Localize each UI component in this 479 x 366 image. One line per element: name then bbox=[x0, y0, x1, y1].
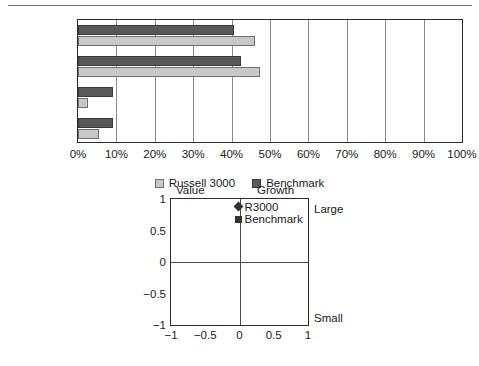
bar-group bbox=[78, 82, 462, 113]
x-axis-tick-label: 0% bbox=[70, 148, 87, 160]
scatter-point: Benchmark bbox=[235, 213, 303, 225]
style-box-y-tick-label: 0.5 bbox=[76, 225, 166, 237]
allocation-bar-chart: LgValueLgGrowthSmValueSmGrowth 0%10%20%3… bbox=[0, 12, 479, 172]
x-axis-tick-label: 90% bbox=[412, 148, 435, 160]
bar-benchmark bbox=[78, 56, 241, 66]
style-box-x-tick-label: −0.5 bbox=[194, 329, 217, 341]
style-box-y-tick-label: 0 bbox=[76, 256, 166, 268]
bar-chart-plot-area bbox=[77, 19, 463, 143]
x-axis-tick-label: 60% bbox=[297, 148, 320, 160]
x-axis-tick-label: 80% bbox=[374, 148, 397, 160]
scatter-point-label: R3000 bbox=[245, 201, 279, 213]
x-axis-tick-label: 70% bbox=[335, 148, 358, 160]
x-axis-tick-label: 10% bbox=[105, 148, 128, 160]
square-marker-icon bbox=[235, 216, 242, 223]
x-axis-tick-label: 20% bbox=[143, 148, 166, 160]
x-axis-tick-label: 30% bbox=[182, 148, 205, 160]
bar-benchmark bbox=[78, 118, 113, 128]
scatter-point-label: Benchmark bbox=[245, 213, 303, 225]
bar-group bbox=[78, 20, 462, 51]
style-box-plot-area: R3000Benchmark bbox=[170, 198, 309, 326]
style-box-y-tick-label: −0.5 bbox=[76, 288, 166, 300]
bar-benchmark bbox=[78, 25, 234, 35]
style-box-label-value: Value bbox=[176, 184, 205, 196]
bar-russell-3000 bbox=[78, 36, 255, 46]
bar-russell-3000 bbox=[78, 67, 260, 77]
style-box-x-tick-label: 0 bbox=[236, 329, 242, 341]
bar-chart-x-axis: 0%10%20%30%40%50%60%70%80%90%100% bbox=[77, 145, 463, 163]
bar-group bbox=[78, 51, 462, 82]
x-axis-tick-label: 40% bbox=[220, 148, 243, 160]
scatter-point: R3000 bbox=[235, 201, 279, 213]
diamond-marker-icon bbox=[233, 202, 243, 212]
style-box-label-growth: Growth bbox=[257, 184, 294, 196]
header-divider bbox=[8, 5, 472, 6]
bar-russell-3000 bbox=[78, 98, 88, 108]
bar-group bbox=[78, 113, 462, 144]
bar-benchmark bbox=[78, 87, 113, 97]
x-axis-tick-label: 50% bbox=[258, 148, 281, 160]
x-axis-tick-label: 100% bbox=[447, 148, 476, 160]
style-box-label-large: Large bbox=[314, 203, 343, 215]
style-box-y-tick-label: 1 bbox=[76, 193, 166, 205]
style-box-x-tick-label: −1 bbox=[164, 329, 177, 341]
bar-russell-3000 bbox=[78, 129, 99, 139]
style-box-x-tick-label: 1 bbox=[305, 329, 311, 341]
style-box-label-small: Small bbox=[314, 312, 343, 324]
style-box-scatter-chart: Value Growth Large Small R3000Benchmark … bbox=[0, 182, 479, 366]
style-box-y-tick-label: −1 bbox=[76, 319, 166, 331]
style-box-x-tick-label: 0.5 bbox=[266, 329, 282, 341]
